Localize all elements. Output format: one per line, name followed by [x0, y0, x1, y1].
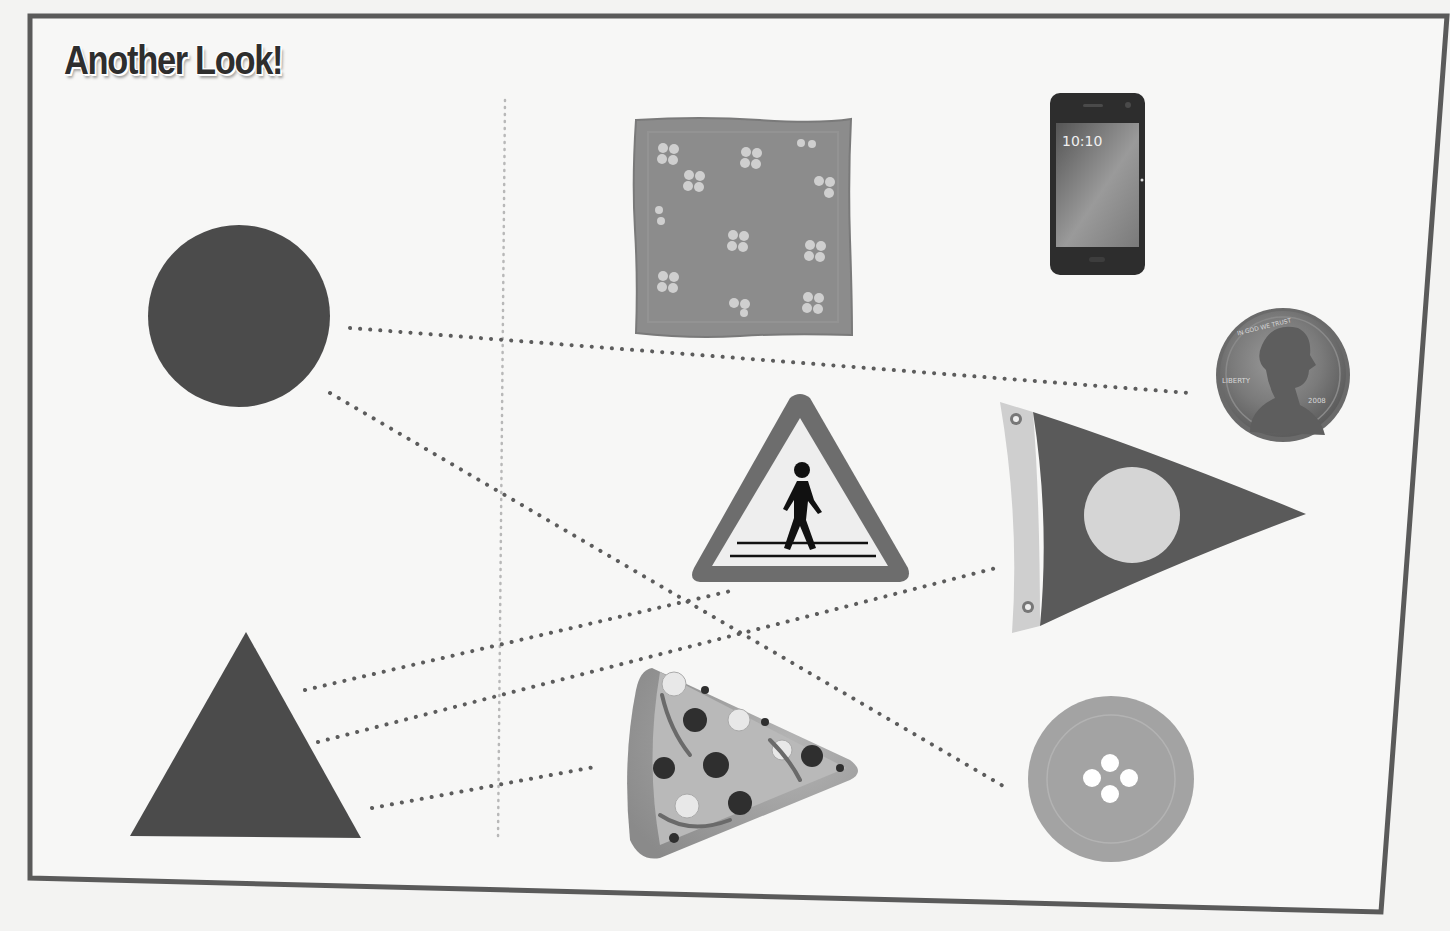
- button-image: [1028, 696, 1194, 862]
- penny-image: LIBERTY 2008 IN GOD WE TRUST: [1216, 308, 1350, 442]
- napkin-image: [634, 118, 852, 337]
- phone-screen-time: 10:10: [1062, 133, 1102, 149]
- worksheet-page: LIBERTY 2008 IN GOD WE TRUST: [0, 0, 1450, 931]
- svg-text:LIBERTY: LIBERTY: [1222, 377, 1251, 385]
- page-title: Another Look!: [64, 38, 282, 83]
- circle-shape: [148, 225, 330, 407]
- svg-text:2008: 2008: [1308, 397, 1326, 405]
- phone-image: [1050, 93, 1145, 275]
